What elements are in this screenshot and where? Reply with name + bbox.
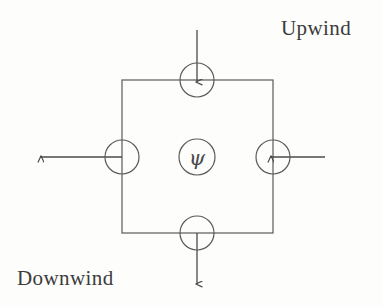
center-node: ψ (179, 139, 215, 175)
control-volume-diagram: ψ (0, 0, 383, 307)
downwind-label: Downwind (17, 268, 114, 289)
psi-symbol: ψ (189, 146, 206, 170)
upwind-label: Upwind (281, 18, 351, 39)
figure-container: ψ Upwind Downwind (0, 0, 383, 307)
flow-arrows (41, 30, 325, 284)
